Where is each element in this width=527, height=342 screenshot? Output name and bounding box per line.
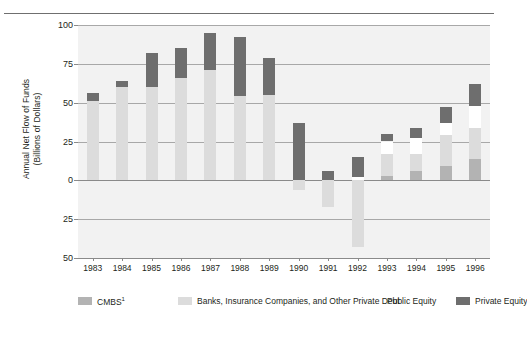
bar-group-1991[interactable] bbox=[322, 25, 334, 258]
x-tick-mark-1985 bbox=[152, 258, 153, 261]
bar-group-1996[interactable] bbox=[469, 25, 481, 258]
bar-group-1988[interactable] bbox=[234, 25, 246, 258]
bar-segment-1989-banks-insurance-companies-and-other-private-debt bbox=[263, 95, 275, 180]
bar-group-1989[interactable] bbox=[263, 25, 275, 258]
legend-item-public-equity[interactable]: Public Equity bbox=[387, 296, 436, 306]
bar-group-1986[interactable] bbox=[175, 25, 187, 258]
bar-segment-1985-banks-insurance-companies-and-other-private-debt bbox=[146, 87, 158, 180]
bar-segment-1988-private-equity bbox=[234, 37, 246, 96]
bar-segment-1984-private-equity bbox=[116, 81, 128, 87]
bar-segment-1989-private-equity bbox=[263, 58, 275, 95]
bar-segment-1992-private-equity bbox=[352, 157, 364, 177]
bar-group-1987[interactable] bbox=[204, 25, 216, 258]
x-tick-label-1995: 1995 bbox=[436, 263, 455, 273]
bar-segment-1991-banks-insurance-companies-and-other-private-debt bbox=[322, 180, 334, 206]
x-tick-label-1988: 1988 bbox=[230, 263, 249, 273]
bar-segment-1983-banks-insurance-companies-and-other-private-debt bbox=[87, 101, 99, 180]
bar-segment-1986-banks-insurance-companies-and-other-private-debt bbox=[175, 78, 187, 181]
plot-area: 1007550250255019831984198519861987198819… bbox=[78, 25, 490, 258]
legend-item-banks-insurance-companies-and-other-private-debt[interactable]: Banks, Insurance Companies, and Other Pr… bbox=[178, 296, 400, 306]
bar-segment-1995-cmbs bbox=[440, 166, 452, 180]
x-tick-mark-1992 bbox=[358, 258, 359, 261]
bar-group-1994[interactable] bbox=[410, 25, 422, 258]
gridline-100 bbox=[78, 25, 490, 26]
bar-segment-1987-banks-insurance-companies-and-other-private-debt bbox=[204, 70, 216, 180]
gridline-75 bbox=[78, 64, 490, 65]
x-tick-mark-1988 bbox=[240, 258, 241, 261]
x-tick-label-1996: 1996 bbox=[466, 263, 485, 273]
x-tick-label-1987: 1987 bbox=[201, 263, 220, 273]
bar-group-1990[interactable] bbox=[293, 25, 305, 258]
x-tick-mark-1996 bbox=[475, 258, 476, 261]
x-tick-mark-1994 bbox=[416, 258, 417, 261]
x-tick-label-1989: 1989 bbox=[260, 263, 279, 273]
y-tick-mark bbox=[74, 25, 78, 26]
x-tick-label-1990: 1990 bbox=[289, 263, 308, 273]
bar-segment-1990-private-equity bbox=[293, 123, 305, 180]
x-tick-label-1985: 1985 bbox=[142, 263, 161, 273]
x-tick-mark-1995 bbox=[446, 258, 447, 261]
bar-segment-1996-public-equity bbox=[469, 106, 481, 128]
gridline-0 bbox=[78, 180, 490, 181]
bar-segment-1996-banks-insurance-companies-and-other-private-debt bbox=[469, 128, 481, 159]
x-tick-label-1994: 1994 bbox=[407, 263, 426, 273]
x-tick-mark-1991 bbox=[328, 258, 329, 261]
x-tick-mark-1983 bbox=[93, 258, 94, 261]
bar-segment-1995-banks-insurance-companies-and-other-private-debt bbox=[440, 135, 452, 166]
x-tick-label-1986: 1986 bbox=[172, 263, 191, 273]
y-tick-mark bbox=[74, 219, 78, 220]
legend-swatch-icon bbox=[456, 297, 470, 305]
legend-footnote-marker: 1 bbox=[122, 296, 125, 302]
bar-segment-1992-banks-insurance-companies-and-other-private-debt bbox=[352, 180, 364, 247]
bar-group-1995[interactable] bbox=[440, 25, 452, 258]
bar-segment-1986-private-equity bbox=[175, 48, 187, 78]
bar-segment-1993-banks-insurance-companies-and-other-private-debt bbox=[381, 154, 393, 176]
y-axis-title: Annual Net Flow of Funds (Billions of Do… bbox=[21, 39, 43, 219]
bar-group-1983[interactable] bbox=[87, 25, 99, 258]
x-tick-mark-1989 bbox=[269, 258, 270, 261]
legend-swatch-icon bbox=[78, 297, 92, 305]
bar-group-1993[interactable] bbox=[381, 25, 393, 258]
y-tick-mark bbox=[74, 64, 78, 65]
x-tick-mark-1990 bbox=[299, 258, 300, 261]
y-tick-label-25: 25 bbox=[63, 137, 73, 147]
y-tick-mark bbox=[74, 258, 78, 259]
bar-segment-1996-private-equity bbox=[469, 84, 481, 106]
legend-label: Private Equity bbox=[475, 296, 527, 306]
bar-segment-1993-public-equity bbox=[381, 142, 393, 154]
bar-segment-1994-cmbs bbox=[410, 171, 422, 180]
x-tick-label-1984: 1984 bbox=[113, 263, 132, 273]
y-tick-label-75: 75 bbox=[63, 59, 73, 69]
gridline-50 bbox=[78, 103, 490, 104]
bar-segment-1993-cmbs bbox=[381, 176, 393, 181]
gridline-50 bbox=[78, 258, 490, 259]
bar-group-1985[interactable] bbox=[146, 25, 158, 258]
y-tick-label-50: 50 bbox=[63, 98, 73, 108]
y-tick-mark bbox=[74, 142, 78, 143]
x-tick-label-1992: 1992 bbox=[348, 263, 367, 273]
legend-item-private-equity[interactable]: Private Equity bbox=[456, 296, 527, 306]
bar-segment-1985-private-equity bbox=[146, 53, 158, 87]
y-axis-title-line-1: Annual Net Flow of Funds bbox=[21, 39, 32, 219]
x-tick-label-1991: 1991 bbox=[319, 263, 338, 273]
chart-legend: CMBS1Banks, Insurance Companies, and Oth… bbox=[78, 296, 490, 310]
legend-swatch-icon bbox=[178, 297, 192, 305]
y-axis-title-line-2: (Billions of Dollars) bbox=[32, 39, 43, 219]
bar-segment-1990-banks-insurance-companies-and-other-private-debt bbox=[293, 180, 305, 189]
y-tick-mark bbox=[74, 103, 78, 104]
x-tick-mark-1986 bbox=[181, 258, 182, 261]
bar-group-1992[interactable] bbox=[352, 25, 364, 258]
bar-segment-1994-private-equity bbox=[410, 128, 422, 139]
bar-segment-1995-private-equity bbox=[440, 107, 452, 123]
x-tick-label-1993: 1993 bbox=[378, 263, 397, 273]
bar-segment-1988-banks-insurance-companies-and-other-private-debt bbox=[234, 96, 246, 180]
gridline-25 bbox=[78, 219, 490, 220]
bar-segment-1991-private-equity bbox=[322, 171, 334, 180]
x-tick-mark-1984 bbox=[122, 258, 123, 261]
y-tick-mark bbox=[74, 180, 78, 181]
x-tick-mark-1987 bbox=[210, 258, 211, 261]
legend-item-cmbs[interactable]: CMBS1 bbox=[78, 296, 125, 307]
x-tick-mark-1993 bbox=[387, 258, 388, 261]
bar-group-1984[interactable] bbox=[116, 25, 128, 258]
